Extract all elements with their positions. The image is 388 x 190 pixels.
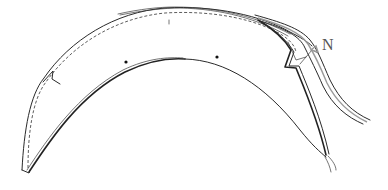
tail-strands bbox=[255, 15, 370, 124]
band-inner-edge bbox=[27, 58, 326, 172]
left-notch bbox=[43, 71, 60, 84]
stitch-line bbox=[28, 12, 296, 168]
left-dot bbox=[124, 60, 127, 63]
label-n: N bbox=[322, 37, 334, 53]
end-strand-2 bbox=[328, 156, 336, 170]
end-strand bbox=[325, 157, 331, 172]
arched-band-drawing bbox=[0, 0, 388, 190]
right-dot bbox=[215, 55, 218, 58]
band-outer-edge bbox=[22, 7, 312, 170]
right-edge bbox=[258, 20, 329, 155]
